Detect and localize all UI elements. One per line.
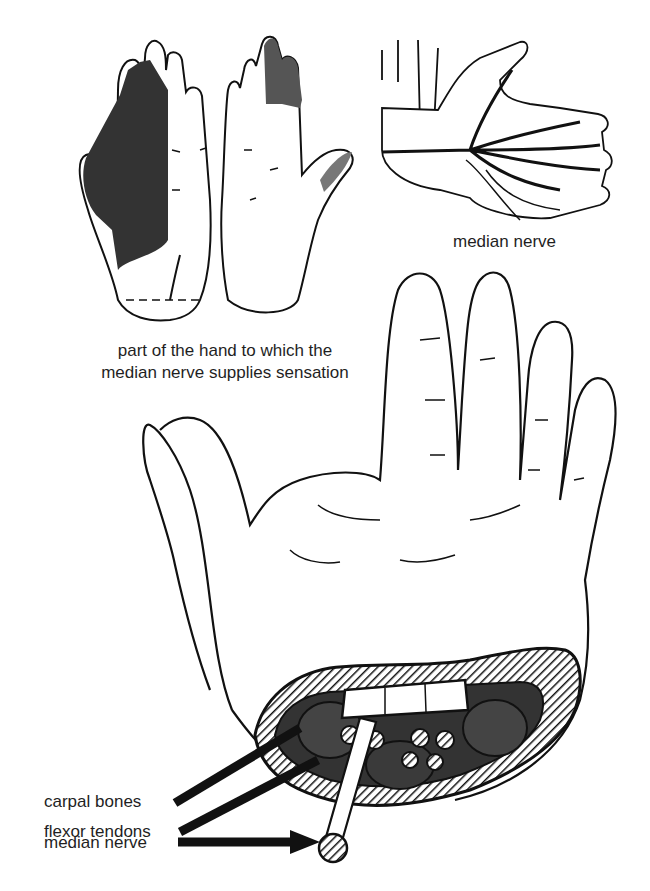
median-nerve-label: median nerve (44, 833, 147, 853)
carpal-tunnel-cross-section (255, 648, 580, 862)
diagram-canvas (0, 0, 650, 891)
sensation-caption-line-1: part of the hand to which the (60, 340, 390, 362)
dorsal-sensation-hand (221, 37, 352, 313)
median-nerve-path-hand (382, 40, 612, 220)
median-nerve-path-label: median nerve (453, 232, 556, 252)
sensation-caption-line-2: median nerve supplies sensation (60, 362, 390, 384)
carpal-bones-label: carpal bones (44, 792, 141, 812)
sensation-caption: part of the hand to which the median ner… (60, 340, 390, 384)
palm-sensation-hand (80, 41, 211, 321)
